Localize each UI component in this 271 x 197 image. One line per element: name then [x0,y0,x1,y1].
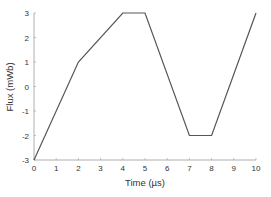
y-tick-label: -3 [22,156,30,165]
x-tick-label: 10 [252,164,261,173]
y-tick-label: -2 [22,132,30,141]
x-tick-label: 1 [54,164,59,173]
x-tick-label: 2 [76,164,81,173]
y-tick-label: 0 [25,83,30,92]
y-tick-label: 1 [25,58,30,67]
tick-labels: 012345678910-3-2-10123 [22,9,261,173]
flux-chart: 012345678910-3-2-10123 Time (µs) Flux (m… [0,0,271,197]
x-tick-label: 9 [232,164,237,173]
x-tick-label: 3 [98,164,103,173]
x-axis-label: Time (µs) [125,177,165,188]
x-tick-label: 5 [143,164,148,173]
x-tick-label: 6 [165,164,170,173]
flux-line [34,13,256,160]
y-tick-label: 3 [25,9,30,18]
x-tick-label: 4 [121,164,126,173]
x-tick-label: 0 [32,164,37,173]
x-tick-label: 7 [187,164,192,173]
y-tick-label: -1 [22,107,30,116]
y-axis-label: Flux (mWb) [4,62,15,111]
y-tick-label: 2 [25,34,30,43]
x-tick-label: 8 [209,164,214,173]
